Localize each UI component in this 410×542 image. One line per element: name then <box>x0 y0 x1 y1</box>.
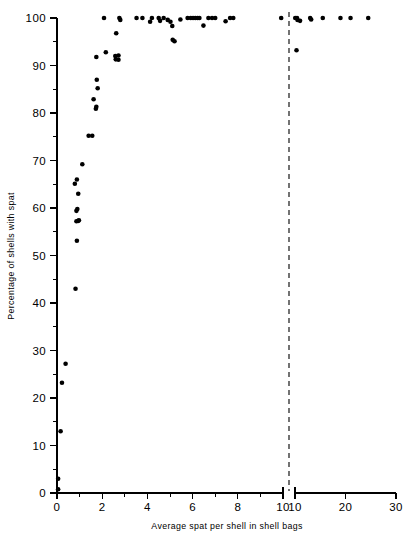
data-point <box>168 20 173 25</box>
y-tick-label-50: 50 <box>32 250 46 262</box>
data-point <box>298 19 303 24</box>
y-tick-label-0: 0 <box>39 487 46 499</box>
data-point <box>366 16 371 21</box>
data-point <box>150 16 155 21</box>
data-point <box>102 16 107 21</box>
data-point <box>75 177 80 182</box>
scatter-plot-figure: 0102030405060708090100 0246810102030 Per… <box>0 0 410 542</box>
data-point <box>60 381 65 386</box>
y-axis-tick-labels: 0102030405060708090100 <box>26 12 46 499</box>
data-point <box>94 55 99 60</box>
data-point <box>178 17 183 22</box>
data-point <box>197 16 202 21</box>
y-tick-label-100: 100 <box>26 12 46 24</box>
x-tick-label-seg1-20: 20 <box>339 501 353 513</box>
data-point <box>80 162 85 167</box>
data-points-layer <box>56 16 371 492</box>
data-point <box>77 218 82 223</box>
data-point <box>95 86 100 91</box>
data-point <box>56 476 61 481</box>
x-tick-label-seg0-4: 4 <box>144 501 151 513</box>
data-point <box>338 16 343 21</box>
data-point <box>116 53 121 58</box>
y-tick-label-10: 10 <box>32 440 46 452</box>
data-point <box>58 429 63 434</box>
x-tick-label-seg0-2: 2 <box>99 501 106 513</box>
data-point <box>90 134 95 139</box>
data-point <box>75 238 80 243</box>
x-tick-label-seg1-30: 30 <box>389 501 403 513</box>
data-point <box>73 181 78 186</box>
data-point <box>91 97 96 102</box>
data-point <box>172 39 177 44</box>
data-point <box>118 18 123 23</box>
data-point <box>73 286 78 291</box>
data-point <box>170 24 175 29</box>
data-point <box>75 207 80 212</box>
x-axis-major-ticks <box>57 493 396 499</box>
data-point <box>63 362 68 367</box>
data-point <box>201 23 206 28</box>
data-point <box>116 58 121 63</box>
data-point <box>94 105 99 110</box>
data-point <box>104 50 109 55</box>
y-tick-label-30: 30 <box>32 345 46 357</box>
data-point <box>134 16 139 21</box>
data-point <box>114 31 119 36</box>
x-tick-label-seg0-6: 6 <box>189 501 196 513</box>
y-tick-label-90: 90 <box>32 60 46 72</box>
data-point <box>320 16 325 21</box>
data-point <box>140 16 145 21</box>
data-point <box>348 16 353 21</box>
y-axis-group: 0102030405060708090100 <box>26 12 57 499</box>
data-point <box>161 16 166 21</box>
y-tick-label-70: 70 <box>32 155 46 167</box>
data-point <box>294 48 299 53</box>
x-axis-title: Average spat per shell in shell bags <box>151 521 303 531</box>
data-point <box>279 16 284 21</box>
plot-canvas: 0102030405060708090100 0246810102030 Per… <box>0 0 410 542</box>
data-point <box>231 16 236 21</box>
data-point <box>76 191 81 196</box>
y-tick-label-80: 80 <box>32 107 46 119</box>
y-tick-label-20: 20 <box>32 392 46 404</box>
x-tick-label-seg0-0: 0 <box>54 501 61 513</box>
x-axis-group: 0246810102030 <box>54 487 403 513</box>
data-point <box>213 16 218 21</box>
x-tick-label-seg0-8: 8 <box>234 501 241 513</box>
x-tick-label-seg1-10: 10 <box>288 501 302 513</box>
data-point <box>223 19 228 24</box>
data-point <box>94 77 99 82</box>
y-tick-label-60: 60 <box>32 202 46 214</box>
x-axis-tick-labels: 0246810102030 <box>54 501 403 513</box>
data-point <box>56 487 61 492</box>
y-axis-title: Percentage of shells with spat <box>6 192 16 320</box>
data-point <box>309 17 314 22</box>
data-point <box>158 19 163 24</box>
y-tick-label-40: 40 <box>32 297 46 309</box>
